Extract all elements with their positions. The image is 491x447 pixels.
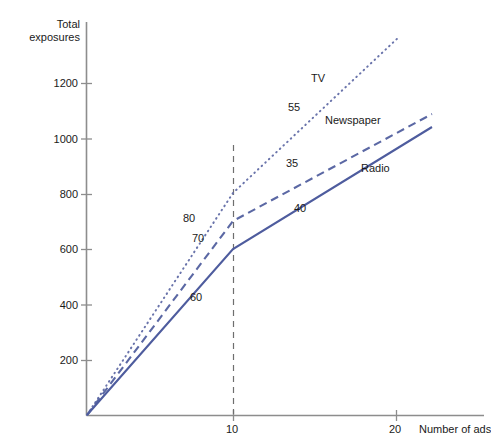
x-tick-label-20: 20 bbox=[389, 423, 401, 435]
series-label-radio: Radio bbox=[361, 162, 390, 174]
series-line-tv bbox=[87, 36, 400, 415]
slope-label-40: 40 bbox=[294, 202, 306, 214]
y-tick-label-1200: 1200 bbox=[36, 77, 78, 89]
slope-label-70: 70 bbox=[192, 232, 204, 244]
series-label-tv: TV bbox=[311, 72, 325, 84]
series-label-newspaper: Newspaper bbox=[325, 114, 381, 126]
y-axis-title-line1: Total bbox=[4, 18, 80, 31]
slope-label-35: 35 bbox=[286, 157, 298, 169]
x-axis-title: Number of ads bbox=[419, 423, 491, 435]
y-tick-label-200: 200 bbox=[36, 354, 78, 366]
slope-label-80: 80 bbox=[183, 212, 195, 224]
x-tick-label-10: 10 bbox=[226, 423, 238, 435]
y-axis-title: Total exposures bbox=[4, 18, 80, 44]
y-tick-label-1000: 1000 bbox=[36, 133, 78, 145]
y-tick-label-600: 600 bbox=[36, 243, 78, 255]
y-axis-title-line2: exposures bbox=[4, 31, 80, 44]
y-tick-label-800: 800 bbox=[36, 188, 78, 200]
slope-label-60: 60 bbox=[190, 291, 202, 303]
y-tick-label-400: 400 bbox=[36, 299, 78, 311]
slope-label-55: 55 bbox=[288, 101, 300, 113]
